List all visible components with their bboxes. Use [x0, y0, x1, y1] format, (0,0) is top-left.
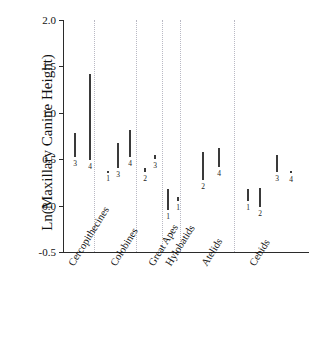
range-bar [259, 188, 261, 207]
range-bar-code-label: 2 [143, 175, 147, 183]
y-tick-mark [59, 206, 64, 207]
range-bar-code-label: 3 [73, 160, 77, 168]
range-bar-code-label: 3 [153, 162, 157, 170]
y-tick-label: 0.5 [42, 154, 56, 165]
chart-canvas: Ln(Maxillary Canine Height) 2.01.51.00.5… [0, 0, 313, 363]
range-bar [117, 143, 119, 168]
range-bar [276, 155, 278, 173]
x-axis-line [63, 252, 309, 253]
range-bar [202, 152, 204, 180]
range-bar [247, 189, 249, 201]
range-bar-code-label: 1 [166, 213, 170, 221]
group-separator-line [162, 20, 163, 252]
y-tick-mark [59, 20, 64, 21]
range-bar [154, 155, 156, 159]
range-bar [290, 171, 292, 173]
range-bar-code-label: 1 [106, 175, 110, 183]
y-tick-label: 2.0 [42, 15, 56, 26]
range-bar [107, 171, 109, 173]
range-bar [129, 130, 131, 157]
y-tick-mark [59, 252, 64, 253]
range-bar-code-label: 3 [116, 171, 120, 179]
y-tick-label: 1.5 [42, 61, 56, 72]
range-bar-code-label: 1 [176, 204, 180, 212]
group-separator-line [136, 20, 137, 252]
range-bar [177, 197, 179, 201]
y-tick-mark [59, 159, 64, 160]
range-bar-code-label: 2 [258, 210, 262, 218]
range-bar [167, 189, 169, 210]
range-bar [74, 133, 76, 157]
range-bar-code-label: 2 [201, 183, 205, 191]
y-axis-title: Ln(Maxillary Canine Height) [39, 23, 56, 263]
y-tick-mark [59, 113, 64, 114]
y-axis-line [63, 20, 64, 253]
range-bar-code-label: 1 [246, 204, 250, 212]
group-separator-line [234, 20, 235, 252]
range-bar-code-label: 4 [289, 176, 293, 184]
range-bar-code-label: 3 [275, 175, 279, 183]
y-tick-mark [59, 66, 64, 67]
range-bar-code-label: 4 [217, 170, 221, 178]
y-tick-label: 1.0 [42, 107, 56, 118]
range-bar-code-label: 4 [88, 163, 92, 171]
y-tick-label: 0.0 [42, 200, 56, 211]
range-bar [218, 148, 220, 167]
range-bar [89, 74, 91, 160]
range-bar-code-label: 4 [128, 160, 132, 168]
y-tick-label: -0.5 [39, 247, 56, 258]
group-separator-line [180, 20, 181, 252]
range-bar [144, 168, 146, 172]
